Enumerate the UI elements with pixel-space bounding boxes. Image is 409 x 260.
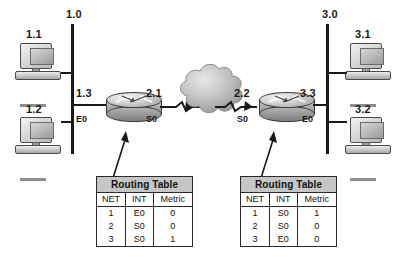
router-right-address-s0: 2.2	[234, 87, 250, 99]
computer-base-icon	[345, 71, 391, 80]
column-header-metric: Metric	[153, 193, 192, 207]
workstation-1-2	[15, 117, 61, 155]
monitor-icon	[350, 117, 382, 143]
cell-net: 3	[97, 233, 126, 246]
router-left-address-e0: 1.3	[76, 87, 92, 99]
table-header-row: NET INT Metric	[97, 193, 192, 207]
router-left-interface-e0: E0	[76, 114, 87, 124]
workstation-label-3-2: 3.2	[355, 103, 371, 115]
cell-net: 2	[241, 220, 270, 233]
router-left-interface-s0: S0	[146, 114, 157, 124]
link-router-right-to-bus-right	[313, 104, 328, 106]
network-bus-right	[326, 24, 329, 154]
table-row: 1 S0 1	[241, 207, 336, 221]
routing-table-right: Routing Table NET INT Metric 1 S0 1 2 S0	[240, 176, 337, 247]
router-right-interface-s0: S0	[237, 114, 248, 124]
routing-table-left: Routing Table NET INT Metric 1 E0 0 2 S0	[96, 176, 193, 247]
cell-metric: 0	[153, 220, 192, 233]
network-label-left: 1.0	[66, 8, 82, 20]
column-header-metric: Metric	[297, 193, 336, 207]
table-row: 3 S0 1	[97, 233, 192, 246]
leader-arrow-right	[252, 131, 282, 179]
cell-metric: 0	[297, 220, 336, 233]
router-right-interface-e0: E0	[302, 114, 313, 124]
cell-int: S0	[126, 233, 154, 246]
link-pc-1-1-to-bus	[61, 72, 73, 74]
monitor-icon	[20, 43, 52, 69]
network-diagram: 1.0 3.0 1.1 1.2 3.1 3.2 1.3 E0	[0, 0, 409, 260]
link-pc-3-2-to-bus	[327, 121, 347, 123]
column-header-net: NET	[241, 193, 270, 207]
cell-metric: 1	[153, 233, 192, 246]
workstation-3-1	[345, 43, 391, 81]
cell-int: E0	[270, 233, 298, 246]
cell-net: 3	[241, 233, 270, 246]
workstation-1-1	[15, 43, 61, 81]
monitor-icon	[350, 43, 382, 69]
column-header-int: INT	[126, 193, 154, 207]
link-pc-1-2-to-bus	[61, 121, 73, 123]
screen-icon	[360, 122, 384, 139]
table-row: 3 E0 0	[241, 233, 336, 246]
link-pc-3-1-to-bus	[327, 72, 347, 74]
routing-table-right-caption: Routing Table	[241, 177, 336, 193]
cell-metric: 1	[297, 207, 336, 221]
computer-base-icon	[15, 71, 61, 80]
serial-link-right	[215, 98, 257, 116]
link-bus-left-to-router-left	[72, 104, 107, 106]
cell-net: 1	[241, 207, 270, 221]
workstation-3-2	[345, 117, 391, 155]
workstation-label-1-1: 1.1	[26, 28, 42, 40]
table-row: 2 S0 0	[97, 220, 192, 233]
cell-net: 1	[97, 207, 126, 221]
cell-metric: 0	[297, 233, 336, 246]
cell-net: 2	[97, 220, 126, 233]
keyboard-icon	[350, 178, 376, 181]
computer-base-icon	[15, 145, 61, 154]
workstation-label-3-1: 3.1	[355, 28, 371, 40]
workstation-label-1-2: 1.2	[26, 103, 42, 115]
network-bus-left	[71, 24, 74, 154]
network-label-right: 3.0	[322, 8, 338, 20]
column-header-int: INT	[270, 193, 298, 207]
screen-icon	[360, 48, 384, 65]
router-right-address-e0: 3.3	[300, 87, 316, 99]
cell-int: S0	[270, 207, 298, 221]
computer-base-icon	[345, 145, 391, 154]
cell-int: E0	[126, 207, 154, 221]
leader-arrow-left	[104, 131, 134, 179]
monitor-icon	[20, 117, 52, 143]
table-row: 1 E0 0	[97, 207, 192, 221]
screen-icon	[30, 48, 54, 65]
table-header-row: NET INT Metric	[241, 193, 336, 207]
column-header-net: NET	[97, 193, 126, 207]
cell-int: S0	[270, 220, 298, 233]
table-row: 2 S0 0	[241, 220, 336, 233]
routing-table-left-caption: Routing Table	[97, 177, 192, 193]
keyboard-icon	[20, 178, 46, 181]
routing-table-right-grid: NET INT Metric 1 S0 1 2 S0 0 3 E	[241, 193, 336, 246]
screen-icon	[30, 122, 54, 139]
cell-metric: 0	[153, 207, 192, 221]
routing-table-left-grid: NET INT Metric 1 E0 0 2 S0 0 3 S	[97, 193, 192, 246]
cell-int: S0	[126, 220, 154, 233]
